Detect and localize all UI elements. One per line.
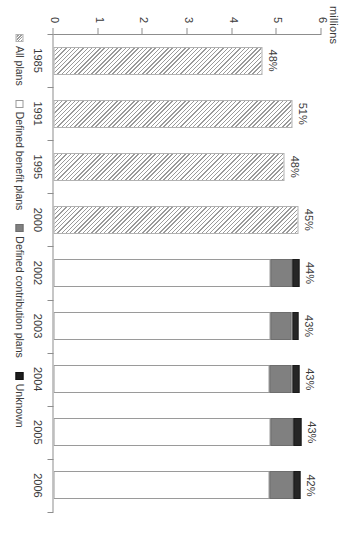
legend-label-defined-benefit: Defined benefit plans — [13, 112, 25, 211]
bar-value-label: 48% — [288, 156, 300, 178]
category-tick — [47, 34, 53, 35]
legend-item-defined-benefit: Defined benefit plans — [13, 100, 25, 211]
bar: 48% — [53, 153, 284, 181]
bar-segment — [53, 312, 270, 340]
legend-item-all-plans: All plans — [13, 34, 25, 86]
bar-segment — [269, 365, 292, 393]
value-tick-label: 3 — [182, 17, 194, 23]
category-tick — [47, 459, 53, 460]
legend-label-defined-contribution: Defined contribution plans — [13, 236, 25, 357]
value-tick-label: 5 — [271, 17, 283, 23]
legend-item-defined-contribution: Defined contribution plans — [13, 224, 25, 357]
category-label: 1995 — [31, 155, 43, 179]
bar-value-label: 51% — [296, 103, 308, 125]
category-tick — [47, 193, 53, 194]
bar: 43% — [53, 418, 301, 446]
bar-segment — [292, 365, 299, 393]
category-tick — [47, 353, 53, 354]
value-tick-label: 6 — [316, 17, 328, 23]
value-axis-line — [53, 34, 321, 35]
value-tick-label: 4 — [227, 17, 239, 23]
legend-label-all-plans: All plans — [13, 46, 25, 86]
value-tick: 5 — [275, 28, 276, 34]
bar: 43% — [53, 312, 298, 340]
bar-segment — [269, 471, 293, 499]
value-tick-label: 0 — [48, 17, 60, 23]
bar: 43% — [53, 365, 299, 393]
category-tick — [47, 300, 53, 301]
category-tick — [47, 246, 53, 247]
legend-swatch-unknown — [15, 372, 23, 380]
bar-value-label: 44% — [303, 262, 315, 284]
category-label: 1991 — [31, 101, 43, 125]
bar: 42% — [53, 471, 300, 499]
bar: 51% — [53, 100, 292, 128]
bar-segment — [53, 471, 269, 499]
bar-segment — [293, 471, 300, 499]
value-tick: 3 — [186, 28, 187, 34]
bar: 44% — [53, 259, 299, 287]
category-label: 2005 — [31, 420, 43, 444]
bar-segment — [270, 312, 292, 340]
chart-legend: All plans Defined benefit plans Defined … — [13, 34, 25, 428]
value-tick: 4 — [231, 28, 232, 34]
rotated-chart-canvas: millions 0123456 19851991199520002002200… — [0, 0, 343, 546]
legend-swatch-defined-contribution — [15, 224, 23, 232]
value-tick-label: 2 — [137, 17, 149, 23]
value-tick: 6 — [320, 28, 321, 34]
category-label: 2002 — [31, 261, 43, 285]
bar-segment — [292, 312, 299, 340]
category-tick — [47, 87, 53, 88]
bar-segment — [292, 259, 299, 287]
bar-value-label: 42% — [304, 474, 316, 496]
bar-segment — [270, 418, 293, 446]
legend-label-unknown: Unknown — [13, 384, 25, 428]
bar-segment — [53, 206, 298, 234]
bar-value-label: 43% — [303, 368, 315, 390]
bar-segment — [53, 418, 270, 446]
bar-value-label: 43% — [305, 421, 317, 443]
category-label: 2004 — [31, 367, 43, 391]
bar-segment — [53, 153, 284, 181]
category-tick — [47, 140, 53, 141]
category-tick — [47, 406, 53, 407]
value-tick: 1 — [97, 28, 98, 34]
bar-segment — [53, 47, 262, 75]
bar-value-label: 43% — [302, 315, 314, 337]
category-tick — [47, 512, 53, 513]
bar-segment — [53, 100, 292, 128]
category-label: 2006 — [31, 473, 43, 497]
legend-swatch-defined-benefit — [15, 100, 23, 108]
category-label: 1985 — [31, 48, 43, 72]
bar: 45% — [53, 206, 298, 234]
bar-segment — [293, 418, 301, 446]
category-label: 2000 — [31, 208, 43, 232]
value-tick-label: 1 — [93, 17, 105, 23]
bar-value-label: 48% — [266, 50, 278, 72]
category-label: 2003 — [31, 314, 43, 338]
bar: 48% — [53, 47, 262, 75]
value-axis-caption: millions — [327, 6, 339, 44]
bar-segment — [53, 365, 269, 393]
bar-value-label: 45% — [302, 209, 314, 231]
legend-item-unknown: Unknown — [13, 372, 25, 428]
bar-segment — [53, 259, 270, 287]
value-tick: 2 — [141, 28, 142, 34]
bar-segment — [270, 259, 292, 287]
chart-plot-area: millions 0123456 19851991199520002002200… — [0, 0, 343, 546]
legend-swatch-all-plans — [15, 34, 23, 42]
